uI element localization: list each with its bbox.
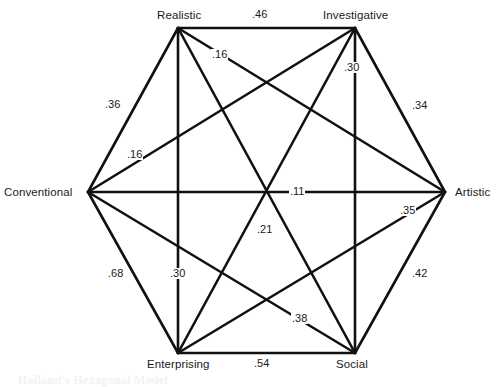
vertex-label-conventional: Conventional <box>4 186 72 198</box>
vertex-label-artistic: Artistic <box>455 186 490 198</box>
edge-value-investigative-artistic: .34 <box>411 100 428 111</box>
edge-value-enterprising-artistic: .35 <box>399 205 416 216</box>
edge-artistic-social <box>355 192 445 353</box>
edge-enterprising-artistic <box>178 192 445 353</box>
edge-conventional-social <box>88 192 355 353</box>
edge-value-conventional-social: .38 <box>291 313 308 324</box>
figure-caption: Holland's Hexagonal Model <box>18 373 168 387</box>
edge-investigative-artistic <box>355 28 445 192</box>
edge-value-enterprising-social: .54 <box>253 358 270 369</box>
edge-value-investigative-social: .30 <box>343 62 360 73</box>
edge-value-realistic-conventional: .36 <box>104 99 121 110</box>
edge-value-realistic-investigative: .46 <box>251 9 268 20</box>
edge-value-conventional-artistic: .11 <box>289 186 305 197</box>
edge-value-realistic-artistic: .16 <box>211 49 228 60</box>
edge-value-investigative-enterprising: .21 <box>256 224 273 235</box>
edge-conventional-realistic <box>88 28 178 192</box>
hexagon-diagram-svg <box>0 0 503 387</box>
vertex-label-investigative: Investigative <box>323 9 388 21</box>
vertex-label-social: Social <box>336 358 368 370</box>
edge-value-realistic-social: .16 <box>126 149 143 160</box>
edge-value-realistic-enterprising: .30 <box>169 268 186 279</box>
edge-value-artistic-social: .42 <box>411 268 428 279</box>
holland-hexagon-figure: Realistic Investigative Artistic Social … <box>0 0 503 387</box>
vertex-label-realistic: Realistic <box>157 9 201 21</box>
edge-layer <box>88 28 445 353</box>
edge-value-conventional-enterprising: .68 <box>107 268 124 279</box>
vertex-label-enterprising: Enterprising <box>147 358 210 370</box>
edge-enterprising-conventional <box>88 192 178 353</box>
